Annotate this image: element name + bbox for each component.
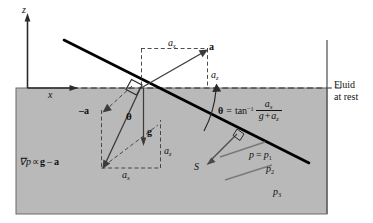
- fluid-at-rest-line-1: Fluid: [334, 79, 358, 91]
- a-z-lower-subscript: z: [169, 150, 171, 157]
- theta-eq-den-sub: z: [276, 115, 278, 122]
- vector-a-arrowhead: [199, 50, 208, 58]
- theta-eq-fraction: ax g+az: [256, 99, 282, 122]
- isobar-p3-label: p3: [273, 187, 281, 198]
- vector-s-label: S: [194, 162, 199, 172]
- a-x-upper-subscript: x: [173, 42, 176, 49]
- fluid-at-rest-line-2: at rest: [334, 91, 358, 103]
- theta-eq-den-g: g: [259, 110, 264, 121]
- vector-neg-a-label: –a: [79, 106, 89, 116]
- vector-a-label: a: [209, 42, 214, 52]
- nabla-icon: ∇: [19, 156, 26, 167]
- theta-eq-equals: =: [226, 105, 232, 116]
- proportional-icon: ∝: [32, 156, 39, 167]
- grad-p-minus-sign: –: [47, 156, 52, 167]
- vector-a-shaft: [141, 53, 203, 89]
- isobar-p1-subscript: 1: [269, 154, 272, 161]
- a-x-lower-subscript: x: [127, 174, 130, 181]
- isobar-p3-subscript: 3: [278, 191, 281, 198]
- theta-eq-tan: tan: [235, 105, 247, 116]
- theta-eq-symbol: θ: [218, 105, 223, 116]
- fluid-at-rest-label: Fluid at rest: [334, 79, 358, 103]
- isobar-p1-lhs: p: [249, 149, 254, 160]
- figure-canvas: z x Fluid at rest ax a az –a θ g az ax ∇…: [0, 0, 373, 223]
- a-z-upper-subscript: z: [216, 74, 218, 81]
- theta-eq-denominator: g+az: [256, 111, 282, 122]
- grad-p-expression: ∇p∝g–a: [19, 157, 59, 167]
- a-z-lower-label: az: [164, 146, 171, 157]
- theta-eq-num-sub: x: [270, 103, 273, 110]
- grad-p-a-symbol: a: [54, 156, 59, 167]
- isobar-p1-label: p=p1: [249, 150, 272, 161]
- theta-angle-label: θ: [126, 111, 132, 122]
- z-axis-label: z: [22, 5, 26, 15]
- diagram-vector-graphics: [0, 0, 373, 223]
- vector-g-label: g: [147, 127, 152, 137]
- a-z-upper-label: az: [211, 70, 218, 81]
- grad-p-g-symbol: g: [40, 156, 45, 167]
- theta-eq-den-plus: +: [265, 110, 271, 121]
- theta-equation: θ=tan−1 ax g+az: [218, 99, 282, 122]
- isobar-p2-subscript: 2: [271, 168, 274, 175]
- x-axis-label: x: [48, 90, 52, 100]
- isobar-p1-equals: =: [256, 149, 262, 160]
- grad-p-symbol: p: [26, 156, 31, 167]
- theta-eq-inverse-exponent: −1: [247, 105, 254, 112]
- a-x-lower-label: ax: [122, 170, 130, 181]
- a-x-upper-label: ax: [168, 38, 176, 49]
- isobar-p2-label: p2: [266, 164, 274, 175]
